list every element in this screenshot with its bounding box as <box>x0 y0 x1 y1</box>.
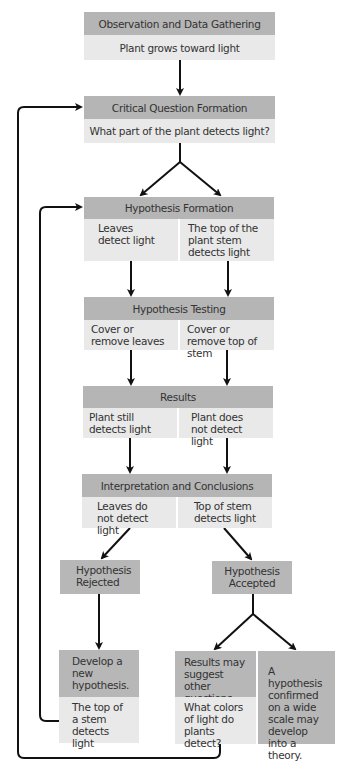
hypothesis-formation-header: Hypothesis Formation <box>84 197 274 219</box>
develop-body: The top of a stem detects light <box>59 697 139 743</box>
results-left: Plant still detects light <box>83 408 177 438</box>
suggest-body: What colors of light do plants detect? <box>175 697 256 744</box>
question-body: What part of the plant detects light? <box>84 119 275 143</box>
hypothesis-testing-header: Hypothesis Testing <box>84 297 274 320</box>
hypothesis-formation-left: Leaves detect light <box>84 219 178 261</box>
hypothesis-formation-right: The top of the plant stem detects light <box>180 219 274 261</box>
question-header: Critical Question Formation <box>84 96 275 119</box>
interpretation-header: Interpretation and Conclusions <box>82 474 272 497</box>
theory-box: A hypothesis confirmed on a wide scale m… <box>258 651 335 744</box>
hypothesis-accepted: Hypothesis Accepted <box>212 561 292 594</box>
results-right: Plant does not detect light <box>179 408 273 438</box>
suggest-questions: Results may suggest other questions. <box>175 651 256 697</box>
interpretation-right: Top of stem detects light <box>178 497 272 528</box>
observation-header: Observation and Data Gathering <box>84 12 275 35</box>
hypothesis-testing-right: Cover or remove top of stem <box>180 320 274 350</box>
hypothesis-testing-left: Cover or remove leaves <box>84 320 178 350</box>
observation-body: Plant grows toward light <box>84 35 275 60</box>
results-header: Results <box>83 386 273 408</box>
interpretation-left: Leaves do not detect light <box>82 497 176 528</box>
hypothesis-rejected: Hypothesis Rejected <box>60 560 140 594</box>
develop-new-hypothesis: Develop a new hypothesis. <box>59 650 139 697</box>
